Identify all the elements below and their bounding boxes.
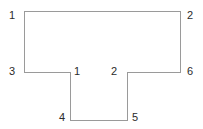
vertex-label-right-shoulder: 6: [187, 66, 193, 77]
vertex-label-left-shoulder: 3: [9, 66, 15, 77]
vertex-label-top-left: 1: [9, 10, 15, 21]
vertex-label-stem-bottom-right: 5: [132, 112, 138, 123]
vertex-label-inner-right: 2: [111, 66, 117, 77]
diagram-canvas: 1 2 3 1 2 6 4 5: [0, 0, 203, 129]
vertex-label-inner-left: 1: [74, 66, 80, 77]
vertex-label-top-right: 2: [187, 10, 193, 21]
t-shape-polygon: [24, 11, 180, 120]
t-shape-outline: [0, 0, 203, 129]
vertex-label-stem-bottom-left: 4: [59, 112, 65, 123]
